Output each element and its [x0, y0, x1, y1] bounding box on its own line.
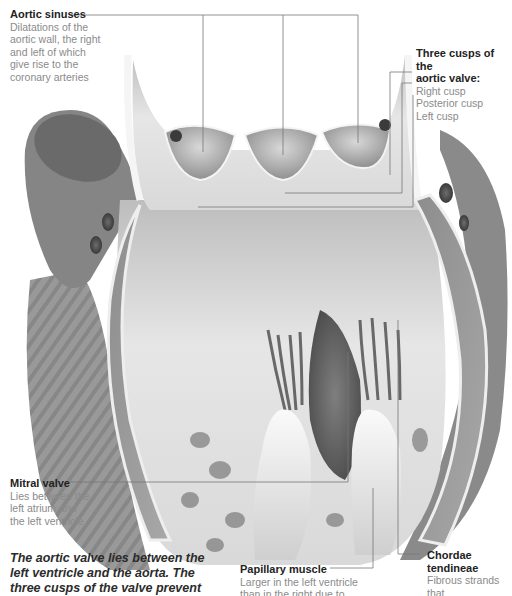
figure-caption: The aortic valve lies between the left v… [10, 551, 230, 596]
left-coronary-ostium [170, 130, 182, 142]
label-chordae-tendineae: Chordae tendineae Fibrous strands that a… [427, 549, 512, 596]
label-aortic-sinuses: Aortic sinuses Dilatations of the aortic… [10, 8, 130, 83]
label-description: Fibrous strands that attach the cusps to… [427, 574, 512, 596]
label-description: Dilatations of the aortic wall, the righ… [10, 21, 130, 84]
label-title: Mitral valve [10, 477, 120, 490]
coronary-vessel [102, 213, 114, 231]
cusp-item-posterior: Posterior cusp [416, 97, 512, 110]
label-title: Papillary muscle [240, 563, 390, 576]
papillary-muscle-right [351, 410, 401, 556]
right-coronary-ostium [379, 119, 391, 131]
label-title: Three cusps of the aortic valve: [416, 47, 512, 85]
label-title: Chordae tendineae [427, 549, 512, 574]
coronary-vessel [459, 215, 469, 231]
coronary-vessel [439, 183, 453, 203]
cusp-item-right: Right cusp [416, 85, 512, 98]
label-description: Larger in the left ventricle than in the… [240, 576, 390, 596]
label-papillary-muscle: Papillary muscle Larger in the left vent… [240, 563, 390, 596]
label-description: Lies between the left atrium and the lef… [10, 490, 120, 528]
label-mitral-valve: Mitral valve Lies between the left atriu… [10, 477, 120, 527]
label-three-cusps: Three cusps of the aortic valve: Right c… [416, 47, 512, 122]
cusp-item-left: Left cusp [416, 110, 512, 123]
coronary-vessel [90, 236, 102, 254]
label-title: Aortic sinuses [10, 8, 130, 21]
